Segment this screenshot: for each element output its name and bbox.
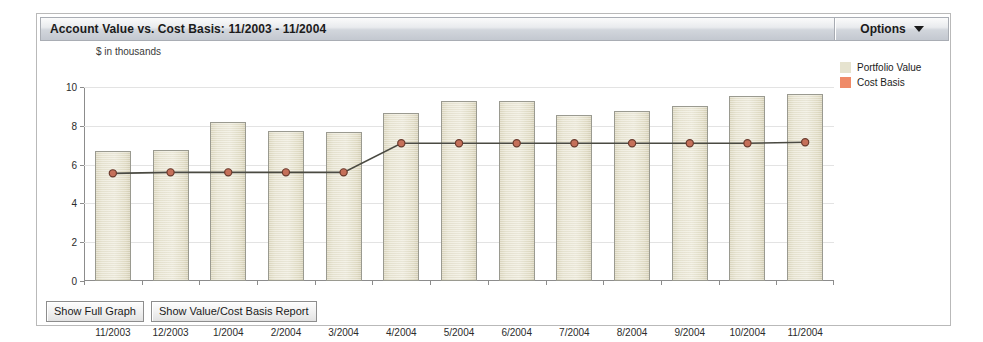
page-title: Account Value vs. Cost Basis: 11/2003 - … — [41, 22, 834, 36]
y-axis-tick — [80, 203, 84, 204]
bar — [268, 131, 304, 281]
x-axis-tick — [315, 281, 316, 285]
x-axis-label: 11/2003 — [95, 327, 130, 338]
y-axis-tick — [80, 126, 84, 127]
x-axis-label: 12/2003 — [152, 327, 188, 338]
bar — [153, 150, 189, 281]
gridline — [84, 87, 834, 88]
x-axis-tick — [603, 281, 604, 285]
x-axis-label: 9/2004 — [674, 327, 705, 338]
chevron-down-icon — [914, 26, 924, 32]
y-axis-label: 10 — [66, 82, 77, 93]
x-axis-label: 1/2004 — [213, 327, 244, 338]
show-full-graph-button[interactable]: Show Full Graph — [46, 301, 144, 322]
y-axis-tick — [80, 165, 84, 166]
bar — [787, 94, 823, 281]
bar — [210, 122, 246, 281]
legend-label: Cost Basis — [857, 77, 905, 88]
legend-swatch-icon — [840, 62, 851, 73]
bar — [556, 115, 592, 281]
x-axis-label: 8/2004 — [617, 327, 648, 338]
x-axis-label: 2/2004 — [271, 327, 302, 338]
bar — [383, 113, 419, 281]
show-value-cost-basis-report-button[interactable]: Show Value/Cost Basis Report — [151, 301, 317, 322]
bar — [326, 132, 362, 281]
options-button[interactable]: Options — [836, 18, 948, 40]
legend-item: Cost Basis — [840, 75, 945, 90]
y-axis-label: 6 — [71, 159, 77, 170]
bar — [672, 106, 708, 281]
bar — [441, 101, 477, 281]
bar — [95, 151, 131, 281]
y-axis-tick — [80, 87, 84, 88]
y-axis-label: 0 — [71, 276, 77, 287]
x-axis-label: 11/2004 — [787, 327, 822, 338]
panel-header: Account Value vs. Cost Basis: 11/2003 - … — [40, 17, 949, 41]
x-axis-tick — [719, 281, 720, 285]
y-axis-label: 4 — [71, 198, 77, 209]
x-axis-label: 6/2004 — [501, 327, 532, 338]
x-axis-tick — [84, 281, 85, 285]
x-axis-tick — [257, 281, 258, 285]
x-axis-tick — [488, 281, 489, 285]
y-axis-label: 2 — [71, 237, 77, 248]
legend-label: Portfolio Value — [857, 62, 921, 73]
x-axis-label: 10/2004 — [729, 327, 765, 338]
x-axis-tick — [199, 281, 200, 285]
legend-item: Portfolio Value — [840, 60, 945, 75]
x-axis-tick — [661, 281, 662, 285]
options-button-label: Options — [860, 22, 905, 36]
x-axis-label: 5/2004 — [444, 327, 475, 338]
footer-toolbar: Show Full Graph Show Value/Cost Basis Re… — [40, 299, 949, 323]
legend-swatch-icon — [840, 77, 851, 88]
y-axis-tick — [80, 242, 84, 243]
x-axis-tick — [372, 281, 373, 285]
y-axis-label: 8 — [71, 120, 77, 131]
chart-legend: Portfolio ValueCost Basis — [840, 60, 945, 90]
bar — [729, 96, 765, 281]
plot-area: 0246810 11/200312/20031/20042/20043/2004… — [84, 87, 834, 281]
x-axis-tick — [833, 281, 834, 285]
x-axis-tick — [776, 281, 777, 285]
x-axis-label: 7/2004 — [559, 327, 590, 338]
bar — [499, 101, 535, 281]
chart-area: $ in thousands 0246810 11/200312/20031/2… — [40, 44, 949, 296]
account-value-chart-panel: Account Value vs. Cost Basis: 11/2003 - … — [36, 13, 951, 326]
x-axis-label: 3/2004 — [328, 327, 359, 338]
x-axis-tick — [430, 281, 431, 285]
x-axis-tick — [546, 281, 547, 285]
x-axis-label: 4/2004 — [386, 327, 417, 338]
bar — [614, 111, 650, 281]
chart-units-label: $ in thousands — [96, 46, 161, 57]
x-axis-tick — [142, 281, 143, 285]
